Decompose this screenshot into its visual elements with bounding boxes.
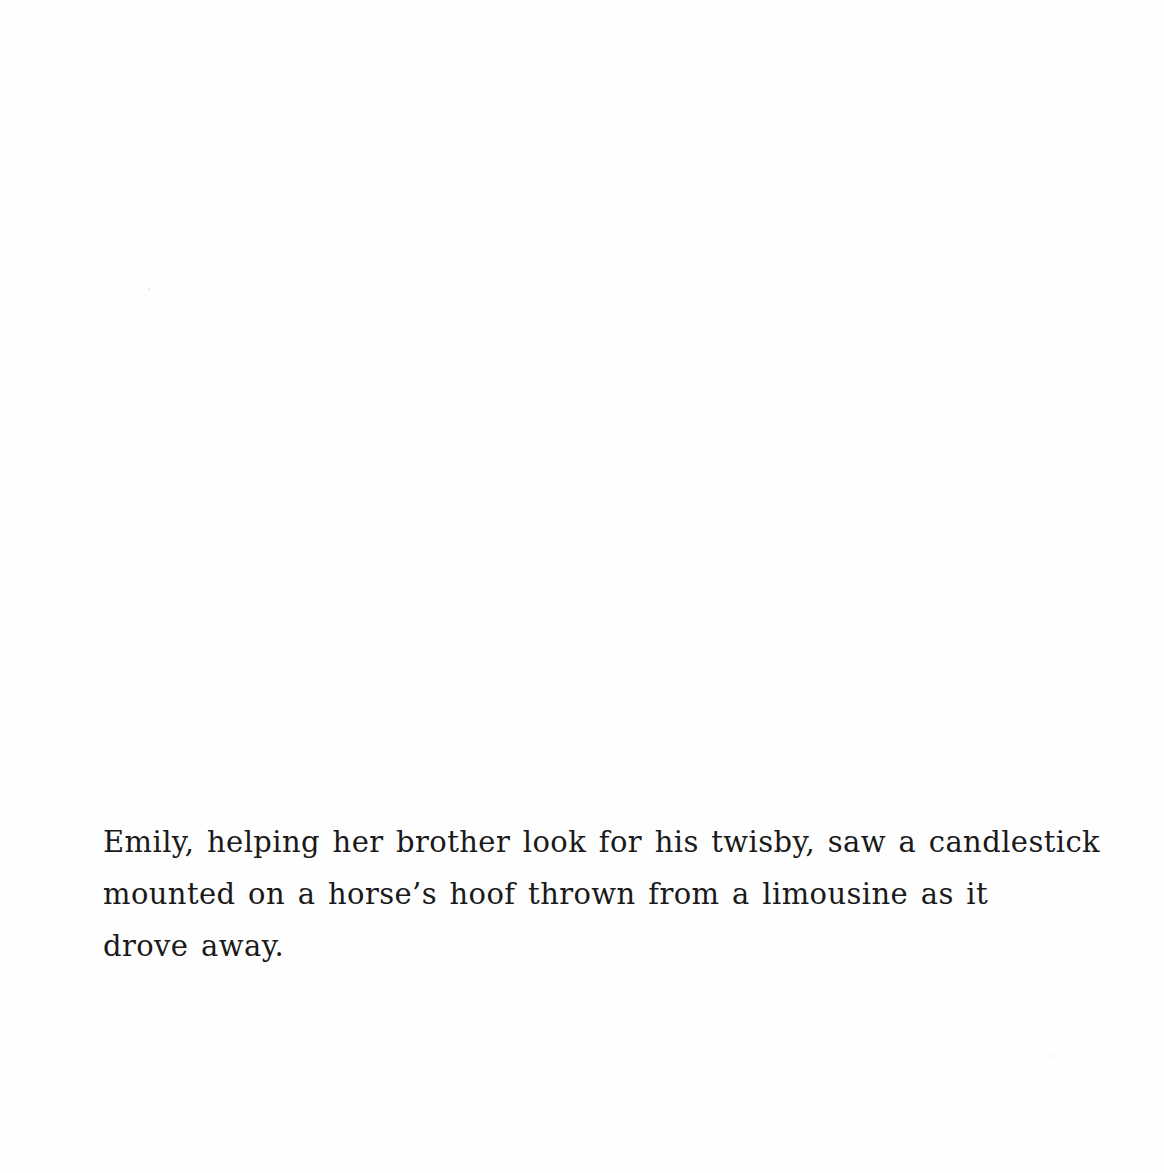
caption-line-3: drove away. <box>103 920 1143 972</box>
paper-speck <box>148 288 150 290</box>
page-caption: Emily, helping her brother look for his … <box>103 816 1143 972</box>
caption-line-2: mounted on a horse’s hoof thrown from a … <box>103 868 1143 920</box>
caption-line-1: Emily, helping her brother look for his … <box>103 816 1143 868</box>
book-page: Emily, helping her brother look for his … <box>0 0 1164 1173</box>
paper-speck <box>1052 1055 1054 1057</box>
